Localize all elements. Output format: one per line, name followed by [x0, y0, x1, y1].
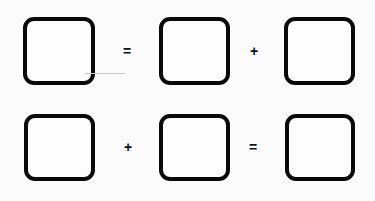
answer-box-row2-3[interactable] [285, 114, 355, 181]
answer-box-row2-2[interactable] [159, 114, 230, 181]
equals-sign: = [243, 137, 263, 157]
plus-sign: + [118, 137, 138, 157]
answer-box-row1-1[interactable] [23, 17, 95, 85]
answer-box-row2-1[interactable] [24, 114, 95, 181]
plus-sign: + [244, 41, 264, 61]
equals-sign: = [117, 41, 137, 61]
answer-box-row1-3[interactable] [284, 17, 355, 85]
scan-artifact-line [85, 73, 125, 74]
answer-box-row1-2[interactable] [159, 17, 230, 85]
